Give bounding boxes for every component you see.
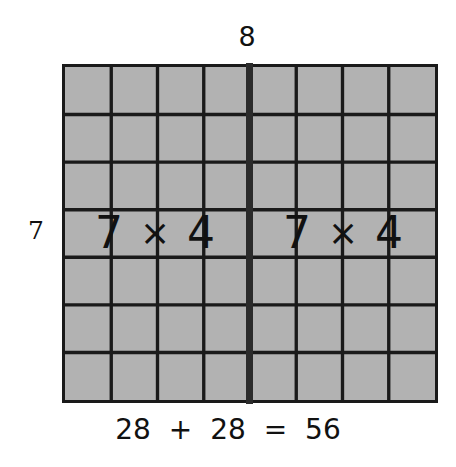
right-factor-b: 4	[375, 211, 403, 255]
right-partition-expression: 7 × 4	[248, 206, 438, 260]
left-dimension-label: 7	[16, 216, 56, 246]
left-factor-b: 4	[187, 211, 215, 255]
left-dimension-value: 7	[28, 216, 44, 245]
left-multiply-operator: ×	[140, 211, 170, 255]
equation-left-addend: 28	[115, 413, 151, 447]
right-multiply-operator: ×	[328, 211, 358, 255]
equation-sum: 56	[305, 413, 341, 447]
left-partition-expression: 7 × 4	[62, 206, 248, 260]
right-factor-a: 7	[283, 211, 311, 255]
top-dimension-label: 8	[0, 22, 456, 52]
equation-right-addend: 28	[210, 413, 246, 447]
equation-equals-sign: =	[264, 413, 287, 447]
bottom-equation: 28 + 28 = 56	[0, 413, 456, 447]
top-dimension-value: 8	[238, 21, 255, 52]
figure-canvas: 8 7	[0, 0, 456, 467]
left-factor-a: 7	[95, 211, 123, 255]
equation-plus-sign: +	[169, 413, 192, 447]
